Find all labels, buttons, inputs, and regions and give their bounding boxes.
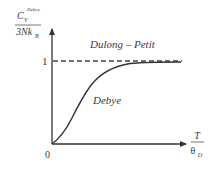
dulong-petit-label: Dulong – Petit bbox=[89, 38, 156, 50]
y-label-denominator-sub: B bbox=[35, 33, 39, 39]
x-label-denominator-sub: D bbox=[197, 152, 203, 158]
x-label-numerator: T bbox=[194, 130, 201, 141]
x-axis-label: T θ D bbox=[191, 130, 204, 158]
origin-label: 0 bbox=[45, 149, 50, 160]
y-label-numerator-sub: V bbox=[24, 17, 29, 23]
x-label-denominator: θ bbox=[191, 145, 196, 156]
y-tick-one: 1 bbox=[42, 55, 48, 67]
y-label-numerator: C bbox=[17, 10, 24, 21]
y-label-numerator-sup: Debye bbox=[26, 7, 41, 12]
chart-svg: 1 0 Dulong – Petit Debye T θ D C V Debye… bbox=[0, 0, 218, 169]
y-axis-label: C V Debye 3Nk B bbox=[15, 7, 41, 39]
y-label-denominator: 3Nk bbox=[15, 26, 33, 37]
debye-label: Debye bbox=[92, 94, 121, 106]
debye-heat-capacity-chart: 1 0 Dulong – Petit Debye T θ D C V Debye… bbox=[0, 0, 218, 169]
